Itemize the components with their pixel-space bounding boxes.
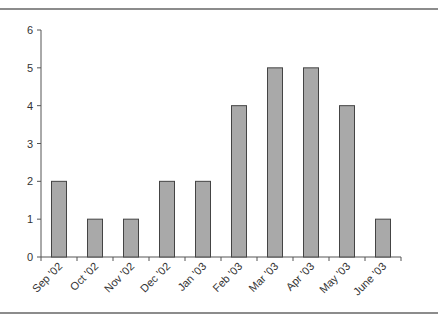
bar-mar-03	[268, 68, 283, 257]
x-tick-label: Oct '02	[68, 260, 101, 293]
bar-feb-03	[232, 106, 247, 257]
x-tick-label: Sep '02	[30, 260, 65, 295]
x-tick-label: May '03	[317, 260, 352, 295]
bar-chart: 0123456 Sep '02Oct '02Nov '02Dec '02Jan …	[0, 0, 438, 316]
x-tick-label: Apr '03	[284, 260, 317, 293]
bar-dec-02	[160, 181, 175, 257]
x-tick-label: June '03	[351, 260, 389, 298]
bar-apr-03	[304, 68, 319, 257]
x-tick-label: Feb '03	[210, 260, 244, 294]
y-axis: 0123456	[27, 24, 41, 263]
y-tick-label: 6	[27, 24, 33, 36]
bar-oct-02	[88, 219, 103, 257]
bar-jan-03	[196, 181, 211, 257]
y-tick-label: 4	[27, 100, 33, 112]
x-tick-label: Dec '02	[138, 260, 173, 295]
x-axis: Sep '02Oct '02Nov '02Dec '02Jan '03Feb '…	[30, 257, 401, 298]
y-tick-label: 3	[27, 138, 33, 150]
bar-june-03	[376, 219, 391, 257]
x-tick-label: Jan '03	[175, 260, 208, 293]
bar-may-03	[340, 106, 355, 257]
y-tick-label: 5	[27, 62, 33, 74]
bar-nov-02	[124, 219, 139, 257]
y-tick-label: 0	[27, 251, 33, 263]
bottom-divider	[0, 312, 438, 314]
y-tick-label: 1	[27, 213, 33, 225]
y-tick-label: 2	[27, 175, 33, 187]
bar-sep-02	[52, 181, 67, 257]
x-tick-label: Mar '03	[246, 260, 280, 294]
x-tick-label: Nov '02	[102, 260, 137, 295]
bars	[52, 68, 391, 257]
